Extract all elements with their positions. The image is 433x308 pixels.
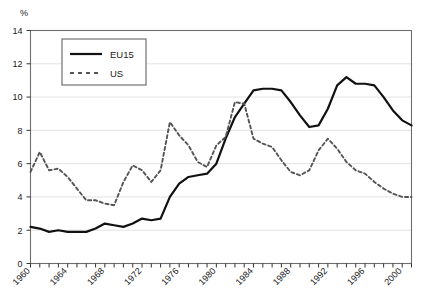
gridlines	[31, 64, 412, 230]
legend-label-us: US	[110, 68, 123, 79]
y-tick-label-8: 8	[17, 126, 22, 136]
y-tick-label-2: 2	[17, 226, 22, 236]
y-axis-unit-label: %	[20, 8, 28, 18]
y-tick-label-10: 10	[12, 92, 22, 102]
x-tick-label-1992: 1992	[308, 266, 329, 287]
chart-container: 02468101214 1960196419681972197619801984…	[0, 0, 433, 308]
y-tick-label-0: 0	[17, 259, 22, 269]
x-tick-label-2000: 2000	[382, 266, 403, 287]
chart-legend: EU15US	[62, 39, 146, 85]
legend-label-eu15: EU15	[110, 49, 134, 60]
x-tick-label-1960: 1960	[11, 266, 32, 287]
x-tick-label-1984: 1984	[234, 266, 255, 287]
x-tick-label-1996: 1996	[345, 266, 366, 287]
legend-box	[62, 39, 146, 85]
x-axis-labels: 1960196419681972197619801984198819921996…	[11, 266, 404, 287]
x-tick-label-1988: 1988	[271, 266, 292, 287]
y-axis-labels: 02468101214	[12, 26, 22, 269]
x-tick-label-1964: 1964	[48, 266, 69, 287]
x-tick-label-1968: 1968	[85, 266, 106, 287]
x-tick-label-1980: 1980	[197, 266, 218, 287]
y-tick-label-6: 6	[17, 159, 22, 169]
y-tick-label-12: 12	[12, 59, 22, 69]
unemployment-rate-line-chart: 02468101214 1960196419681972197619801984…	[0, 0, 433, 308]
data-series	[31, 77, 412, 232]
x-tick-label-1976: 1976	[159, 266, 180, 287]
y-axis-unit: %	[20, 8, 28, 18]
y-tick-label-14: 14	[12, 26, 22, 36]
series-line-eu15	[31, 77, 412, 232]
y-tick-label-4: 4	[17, 192, 22, 202]
x-tick-label-1972: 1972	[122, 266, 143, 287]
